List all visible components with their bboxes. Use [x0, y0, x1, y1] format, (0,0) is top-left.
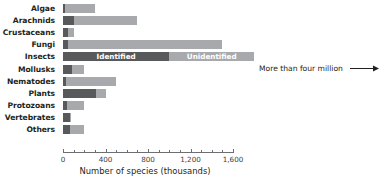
x-axis-minor-tick — [84, 150, 85, 153]
bar-row — [63, 28, 74, 37]
bar-segment-unidentified — [74, 16, 138, 25]
x-axis-major-tick — [191, 149, 192, 153]
bar-segment-identified — [63, 65, 72, 74]
legend-label-unidentified: Unidentified — [187, 52, 237, 61]
x-axis-tick-label: 400 — [99, 155, 113, 164]
bar-segment-unidentified — [66, 77, 116, 86]
bar-segment-unidentified — [70, 125, 84, 134]
bar-row — [63, 4, 95, 13]
bar-segment-identified — [63, 89, 96, 98]
x-axis-major-tick — [148, 149, 149, 153]
x-axis-minor-tick — [212, 150, 213, 153]
x-axis-major-tick — [106, 149, 107, 153]
x-axis-minor-tick — [127, 150, 128, 153]
bar-segment-unidentified — [68, 28, 74, 37]
x-axis-minor-tick — [74, 150, 75, 153]
x-axis-title: Number of species (thousands) — [0, 166, 290, 176]
bar-row — [63, 77, 116, 86]
x-axis-minor-tick — [201, 150, 202, 153]
bar-row — [63, 113, 72, 122]
category-label-protozoans: Protozoans — [0, 101, 58, 110]
category-label-algae: Algae — [0, 4, 58, 13]
x-axis-minor-tick — [169, 150, 170, 153]
category-label-crustaceans: Crustaceans — [0, 28, 58, 37]
bar-segment-unidentified — [68, 40, 223, 49]
x-axis-minor-tick — [222, 150, 223, 153]
bar-row — [63, 125, 84, 134]
category-label-nematodes: Nematodes — [0, 77, 58, 86]
bar-segment-unidentified — [96, 89, 106, 98]
category-label-vertebrates: Vertebrates — [0, 113, 58, 122]
x-axis-tick-label: 1,600 — [223, 155, 244, 164]
more-than-four-million-annotation: More than four million — [259, 64, 343, 73]
bar-row — [63, 16, 137, 25]
plot-area: IdentifiedUnidentified — [63, 0, 384, 150]
x-axis-tick-label: 0 — [61, 155, 66, 164]
bar-segment-identified — [63, 113, 70, 122]
bar-row — [63, 65, 84, 74]
species-bar-chart: AlgaeArachnidsCrustaceansFungiInsectsMol… — [0, 0, 384, 181]
category-label-column: AlgaeArachnidsCrustaceansFungiInsectsMol… — [0, 0, 58, 150]
x-axis-tick-label: 800 — [141, 155, 155, 164]
x-axis-minor-tick — [180, 150, 181, 153]
category-label-mollusks: Mollusks — [0, 65, 58, 74]
x-axis-major-tick — [233, 149, 234, 153]
bar-row — [63, 89, 106, 98]
bar-segment-identified — [63, 125, 70, 134]
bar-segment-unidentified — [65, 4, 95, 13]
x-axis-minor-tick — [137, 150, 138, 153]
legend-label-identified: Identified — [97, 52, 136, 61]
category-label-insects: Insects — [0, 52, 58, 61]
bar-segment-unidentified — [72, 65, 84, 74]
bar-row — [63, 101, 84, 110]
x-axis-minor-tick — [159, 150, 160, 153]
x-axis-minor-tick — [95, 150, 96, 153]
x-axis-major-tick — [63, 149, 64, 153]
bar-row: IdentifiedUnidentified — [63, 52, 254, 61]
bar-segment-identified — [63, 16, 74, 25]
category-label-others: Others — [0, 125, 58, 134]
category-label-fungi: Fungi — [0, 40, 58, 49]
x-axis-minor-tick — [116, 150, 117, 153]
bar-segment-unidentified — [67, 101, 84, 110]
bar-row — [63, 40, 222, 49]
category-label-plants: Plants — [0, 89, 58, 98]
bar-segment-unidentified — [70, 113, 72, 122]
right-arrow-icon — [350, 64, 380, 73]
x-axis-tick-label: 1,200 — [180, 155, 201, 164]
category-label-arachnids: Arachnids — [0, 16, 58, 25]
